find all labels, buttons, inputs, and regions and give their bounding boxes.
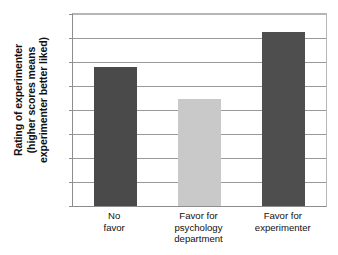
x-axis-label: Favor forexperimenter (241, 210, 325, 233)
bar (94, 67, 137, 206)
plot-area: 012345678 (72, 13, 327, 207)
x-axis-label-line: experimenter (241, 222, 325, 234)
x-axis-label-line: favor (72, 222, 156, 234)
x-axis-label-line: Favor for (241, 210, 325, 222)
y-axis-title-line-1: Rating of experimenter (12, 44, 24, 156)
bar-chart-figure: Rating of experimenter (higher scores me… (0, 0, 338, 255)
x-axis-label: Nofavor (72, 210, 156, 233)
bar (178, 99, 221, 206)
x-axis-label-line: No (72, 210, 156, 222)
x-axis-label: Favor forpsychologydepartment (156, 210, 240, 245)
bar (262, 32, 305, 206)
bars-layer (73, 14, 326, 206)
y-axis-title-line-3: experimenter better liked) (37, 37, 49, 163)
x-axis-category-labels: NofavorFavor forpsychologydepartmentFavo… (72, 210, 325, 255)
y-axis-title: Rating of experimenter (higher scores me… (5, 5, 57, 195)
y-axis-title-line-2: (higher scores means (25, 47, 37, 154)
x-axis-label-line: psychology (156, 222, 240, 234)
x-axis-label-line: Favor for (156, 210, 240, 222)
x-axis-label-line: department (156, 233, 240, 245)
